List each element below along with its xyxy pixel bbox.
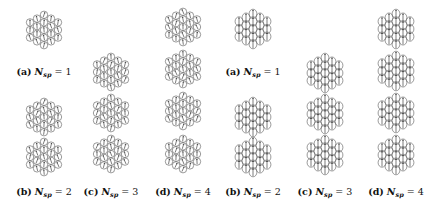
caption-value: = 4 [407,186,424,197]
spin-site [47,102,54,109]
spin-site [121,109,128,116]
spin-site [107,68,114,75]
spin-site [193,16,200,23]
spin-site [186,77,193,84]
hex-cluster [26,138,61,176]
hex-cluster [235,137,271,177]
spin-site [47,23,54,30]
caption-subscript: sp [110,191,118,199]
spin-site [179,143,186,150]
spin-site [314,80,322,89]
hex-cluster [235,97,271,137]
caption-subscript: sp [183,191,191,199]
spin-site [392,166,400,175]
spin-site [47,30,54,37]
spin-site [165,31,172,38]
spin-site [172,27,179,34]
caption-value: = 2 [264,186,281,197]
caption-left-random-spins-b: (b) Nsp = 2 [16,186,72,199]
spin-site [335,158,343,167]
caption-value: = 1 [264,66,281,77]
spin-site [107,135,114,142]
spin-site [93,61,100,68]
spin-site [256,124,264,133]
caption-label: (a) [225,66,240,77]
spin-site [307,158,315,167]
spin-site [172,96,179,103]
spin-site [165,65,172,72]
spin-site [26,34,33,41]
spin-site [193,31,200,38]
spin-site [172,35,179,42]
spin-site [186,147,193,154]
panel-right-aligned-spins-d [378,9,414,175]
spin-site [179,150,186,157]
spin-site [328,162,336,171]
spin-site [40,146,47,153]
spin-site [54,161,61,168]
spin-site [179,135,186,142]
panel-left-random-spins-c [93,53,128,173]
spin-site [165,23,172,30]
spin-site [47,117,54,124]
hex-cluster [307,135,343,175]
spin-site [121,143,128,150]
spin-site [172,61,179,68]
spin-site [100,162,107,169]
spin-site [179,81,186,88]
spin-site [172,12,179,19]
spin-site [100,72,107,79]
caption-right-aligned-spins-a: (a) Nsp = 1 [225,66,280,79]
spin-site [114,72,121,79]
spin-site [165,115,172,122]
spin-site [26,146,33,153]
spin-site [242,164,250,173]
spin-site [54,146,61,153]
spin-site [165,16,172,23]
spin-site [40,98,47,105]
spin-site [33,23,40,30]
spin-site [107,143,114,150]
hex-cluster [26,11,61,49]
spin-site [114,162,121,169]
spin-site [107,94,114,101]
spin-site [107,53,114,60]
caption-subscript: sp [253,191,261,199]
spin-site [54,26,61,33]
caption-left-random-spins-d: (d) Nsp = 4 [155,186,211,199]
caption-value: = 3 [121,186,138,197]
spin-site [40,129,47,136]
spin-site [179,92,186,99]
caption-label: (d) [155,186,171,197]
spin-site [47,150,54,157]
spin-site [193,143,200,150]
spin-site [121,150,128,157]
spin-site [121,117,128,124]
caption-label: (b) [16,186,32,197]
spin-site [100,65,107,72]
spin-site [107,84,114,91]
spin-site [378,158,386,167]
spin-site [54,106,61,113]
spin-site [186,35,193,42]
spin-site [100,113,107,120]
spin-site [172,119,179,126]
spin-site [121,76,128,83]
caption-subscript: sp [396,191,404,199]
spin-site [114,98,121,105]
spin-site [385,120,393,129]
caption-subscript: sp [324,191,332,199]
spin-site [93,117,100,124]
spin-site [378,116,386,125]
spin-site [107,166,114,173]
spin-site [33,30,40,37]
panel-right-aligned-spins-c [307,53,343,175]
spin-site [165,158,172,165]
spin-site [26,106,33,113]
spin-site [249,128,257,137]
spin-site [179,23,186,30]
spin-site [172,104,179,111]
spin-site [107,109,114,116]
caption-subscript: sp [252,71,260,79]
spin-site [179,73,186,80]
